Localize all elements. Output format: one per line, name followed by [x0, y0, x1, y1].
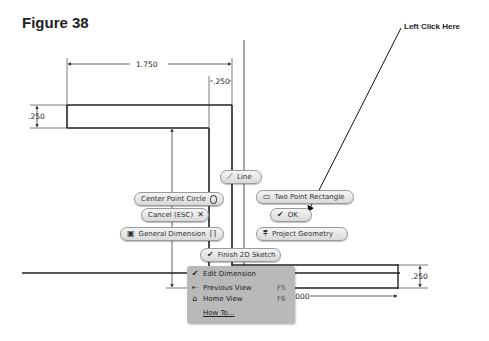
menu-item-home-view[interactable]: ⌂ Home View F6 [187, 293, 295, 304]
center-point-circle-button[interactable]: Center Point Circle [134, 192, 224, 206]
two-point-rectangle-button[interactable]: ▭ Two Point Rectangle [256, 190, 354, 204]
menu-item-previous-view[interactable]: ⇠ Previous View F5 [187, 282, 295, 293]
menu-item-edit-dimension[interactable]: ✔ Edit Dimension [187, 268, 295, 279]
line-icon: ⟋ [227, 173, 233, 181]
line-button[interactable]: ⟋ Line [220, 170, 262, 184]
dim-left-thickness[interactable]: .250 [28, 112, 45, 121]
check-icon: ✔ [277, 211, 284, 219]
finish-sketch-button[interactable]: ✔ Finish 2D Sketch [200, 248, 281, 262]
ok-button[interactable]: ✔ OK [270, 208, 312, 222]
circle-icon [210, 195, 217, 204]
previous-view-icon: ⇠ [187, 283, 203, 292]
project-geometry-icon: ⩱ [263, 230, 268, 238]
menu-item-how-to[interactable]: How To... [187, 307, 295, 318]
general-dimension-button[interactable]: ▣ General Dimension ⌈⌉ [120, 227, 224, 241]
dimension-icon: ▣ [127, 230, 135, 238]
dim-right-thickness[interactable]: .250 [411, 272, 428, 281]
check-icon: ✔ [187, 269, 203, 278]
rectangle-icon: ▭ [263, 193, 271, 201]
dim-top-small[interactable]: .250 [213, 77, 230, 86]
home-icon: ⌂ [187, 294, 203, 303]
dimension-bracket-icon: ⌈⌉ [210, 230, 216, 238]
cancel-button[interactable]: Cancel (ESC) ✕ [141, 208, 209, 222]
close-icon: ✕ [197, 211, 204, 219]
dim-top-width[interactable]: 1.750 [136, 60, 158, 69]
context-menu: ✔ Edit Dimension ⇠ Previous View F5 ⌂ Ho… [187, 266, 295, 324]
finish-check-icon: ✔ [207, 251, 214, 259]
project-geometry-button[interactable]: ⩱ Project Geometry [256, 227, 348, 241]
